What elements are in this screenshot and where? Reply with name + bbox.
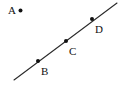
point-label-d: D	[95, 24, 103, 35]
point-dots-group	[19, 9, 95, 64]
point-label-a: A	[8, 5, 16, 16]
point-dot-c	[64, 39, 68, 43]
point-label-c: C	[69, 46, 76, 57]
point-dot-d	[90, 17, 94, 21]
point-label-b: B	[41, 66, 48, 77]
figure-drawing-area	[0, 0, 126, 99]
point-dot-b	[36, 59, 40, 63]
geometry-figure: ABCD	[0, 0, 126, 99]
point-dot-a	[19, 9, 23, 13]
